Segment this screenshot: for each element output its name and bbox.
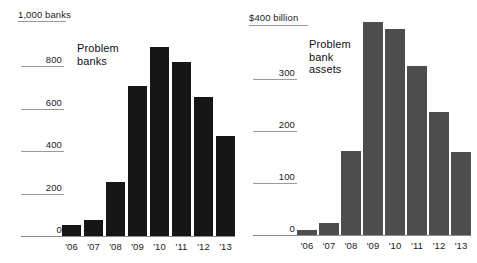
y-tick-300: 300	[247, 68, 295, 78]
bar-2013	[216, 136, 235, 236]
gridline-200	[21, 194, 64, 195]
bar-2007	[319, 223, 339, 235]
y-tick-100: 100	[247, 172, 295, 182]
y-tick-200: 200	[14, 183, 62, 193]
bar-2009	[363, 22, 383, 235]
gridline-400	[21, 151, 64, 152]
gridline-600	[21, 109, 64, 110]
bar-2011	[172, 62, 191, 236]
gridline-200	[253, 131, 297, 132]
y-axis-title: $400 billion	[249, 13, 298, 23]
bar-2008	[341, 151, 361, 235]
x-tick-2013: '13	[446, 240, 476, 251]
gridline-300	[253, 79, 297, 80]
bar-group-problem-banks	[62, 46, 235, 236]
y-tick-800: 800	[14, 55, 62, 65]
chart-panel-problem-banks: 1,000 banks 800 600 400 200 0 Problem ba…	[0, 0, 240, 263]
bar-2011	[407, 66, 427, 235]
x-tick-2013: '13	[211, 241, 240, 252]
bar-2013	[451, 152, 471, 235]
gridline-100	[253, 183, 297, 184]
y-tick-0: 0	[14, 225, 62, 235]
y-tick-400: 400	[14, 140, 62, 150]
bar-2009	[128, 86, 147, 236]
bar-2006	[297, 230, 317, 235]
bar-2010	[150, 47, 169, 236]
bar-2012	[429, 112, 449, 235]
y-tick-200: 200	[247, 120, 295, 130]
bar-group-problem-bank-assets	[297, 21, 472, 235]
bar-2008	[106, 182, 125, 236]
axis-baseline	[21, 236, 235, 237]
bar-2010	[385, 29, 405, 235]
y-axis-title: 1,000 banks	[18, 10, 71, 20]
bar-2007	[84, 220, 103, 236]
gridline-800	[21, 66, 64, 67]
axis-baseline	[253, 235, 471, 236]
chart-panel-problem-bank-assets: $400 billion 300 200 100 0 Problem bank …	[237, 0, 477, 263]
dual-bar-chart-figure: 1,000 banks 800 600 400 200 0 Problem ba…	[0, 0, 477, 263]
gridline-1000	[18, 21, 66, 22]
bar-2012	[194, 97, 213, 236]
y-tick-0: 0	[247, 224, 295, 234]
y-tick-600: 600	[14, 98, 62, 108]
bar-2006	[62, 225, 81, 236]
